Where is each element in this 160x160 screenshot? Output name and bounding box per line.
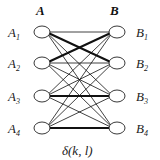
set-a-label: A <box>35 3 45 18</box>
label-b3: B3 <box>136 89 148 106</box>
node-a2 <box>34 57 50 69</box>
node-b1 <box>109 26 125 38</box>
node-a4 <box>34 122 50 134</box>
label-a3: A3 <box>7 89 20 106</box>
label-a4: A4 <box>7 121 20 138</box>
bipartite-graph: A B A1A2A3A4B1B2B3B4 δ(k, l) <box>0 0 160 160</box>
caption: δ(k, l) <box>62 143 93 158</box>
node-a1 <box>34 26 50 38</box>
node-a3 <box>34 90 50 102</box>
node-b3 <box>109 90 125 102</box>
label-b1: B1 <box>136 25 148 42</box>
set-b-label: B <box>109 3 119 18</box>
label-b2: B2 <box>136 56 148 73</box>
edges <box>46 32 113 128</box>
node-b4 <box>109 122 125 134</box>
label-a2: A2 <box>7 56 20 73</box>
label-a1: A1 <box>7 25 20 42</box>
label-b4: B4 <box>136 121 148 138</box>
node-labels: A1A2A3A4B1B2B3B4 <box>7 25 148 138</box>
node-b2 <box>109 57 125 69</box>
